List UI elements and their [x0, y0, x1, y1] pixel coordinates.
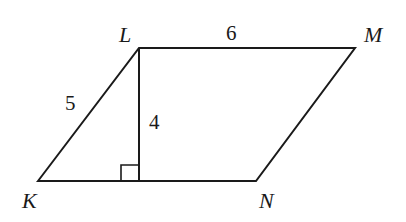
side-lm-length: 6: [226, 21, 237, 45]
vertex-label-n: N: [258, 188, 275, 213]
parallelogram-klmn: [38, 48, 355, 181]
vertex-label-k: K: [21, 188, 38, 213]
vertex-label-m: M: [363, 22, 384, 47]
parallelogram-diagram: L M K N 6 5 4: [0, 0, 406, 222]
side-kl-length: 5: [65, 91, 76, 115]
vertex-label-l: L: [118, 22, 131, 47]
right-angle-marker: [121, 165, 139, 181]
height-length: 4: [149, 110, 160, 134]
